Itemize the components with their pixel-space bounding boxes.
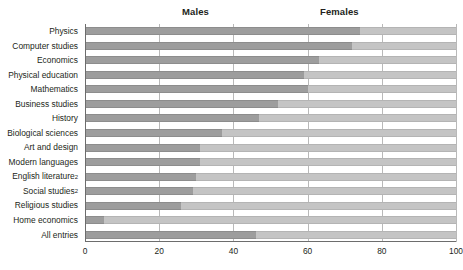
x-tick-label: 60 [303, 246, 312, 256]
category-label: Religious studies [0, 198, 82, 213]
stacked-bar [85, 202, 456, 210]
stacked-bar [85, 71, 456, 79]
category-label: Physical education [0, 68, 82, 83]
bar-segment-males [85, 129, 222, 137]
stacked-bar [85, 56, 456, 64]
category-label: Home economics [0, 213, 82, 228]
stacked-bar [85, 27, 456, 35]
bar-segment-males [85, 42, 352, 50]
category-label: Business studies [0, 97, 82, 112]
x-tick-label: 80 [377, 246, 386, 256]
stacked-bar-chart: Males Females PhysicsComputer studiesEco… [0, 0, 463, 270]
bar-segment-females [352, 42, 456, 50]
y-axis-line [85, 24, 86, 242]
category-label: Mathematics [0, 82, 82, 97]
category-label: Physics [0, 24, 82, 39]
x-tick-label: 100 [449, 246, 463, 256]
bar-segment-males [85, 158, 200, 166]
stacked-bar [85, 100, 456, 108]
bar-segment-females [200, 144, 456, 152]
category-label: History [0, 111, 82, 126]
legend-label-males: Males [182, 6, 209, 17]
bar-row [85, 126, 456, 141]
category-label: Biological sciences [0, 126, 82, 141]
stacked-bar [85, 85, 456, 93]
plot-area [85, 24, 456, 242]
bar-segment-females [193, 187, 456, 195]
stacked-bar [85, 231, 456, 239]
bar-segment-males [85, 71, 304, 79]
category-label: Social studies2 [0, 184, 82, 199]
bar-row [85, 68, 456, 83]
bar-row [85, 140, 456, 155]
bar-row [85, 227, 456, 242]
bar-segment-males [85, 202, 181, 210]
category-label: Computer studies [0, 39, 82, 54]
bar-row [85, 53, 456, 68]
bar-segment-males [85, 27, 360, 35]
stacked-bar [85, 129, 456, 137]
category-label: All entries [0, 227, 82, 242]
bar-segment-males [85, 85, 308, 93]
bar-rows [85, 24, 456, 242]
x-axis-line [85, 241, 456, 242]
category-axis-labels: PhysicsComputer studiesEconomicsPhysical… [0, 24, 82, 242]
bar-row [85, 155, 456, 170]
category-label: Economics [0, 53, 82, 68]
stacked-bar [85, 187, 456, 195]
bar-row [85, 82, 456, 97]
bar-segment-males [85, 216, 104, 224]
bar-segment-females [196, 173, 456, 181]
gridline [456, 24, 457, 242]
stacked-bar [85, 216, 456, 224]
bar-segment-males [85, 144, 200, 152]
category-label: English literature2 [0, 169, 82, 184]
bar-segment-males [85, 173, 196, 181]
bar-segment-females [319, 56, 456, 64]
stacked-bar [85, 144, 456, 152]
bar-segment-males [85, 231, 256, 239]
bar-segment-males [85, 100, 278, 108]
legend-label-females: Females [320, 6, 359, 17]
bar-segment-males [85, 187, 193, 195]
bar-row [85, 213, 456, 228]
bar-row [85, 39, 456, 54]
bar-row [85, 111, 456, 126]
bar-segment-females [259, 114, 456, 122]
bar-segment-males [85, 114, 259, 122]
x-tick-label: 0 [83, 246, 88, 256]
bar-segment-females [222, 129, 456, 137]
bar-row [85, 184, 456, 199]
stacked-bar [85, 173, 456, 181]
category-label: Modern languages [0, 155, 82, 170]
x-tick-label: 20 [155, 246, 164, 256]
bar-segment-females [360, 27, 456, 35]
bar-segment-females [278, 100, 456, 108]
chart-legend: Males Females [0, 6, 463, 20]
bar-row [85, 169, 456, 184]
stacked-bar [85, 114, 456, 122]
bar-segment-males [85, 56, 319, 64]
bar-row [85, 24, 456, 39]
bar-row [85, 198, 456, 213]
bar-segment-females [181, 202, 456, 210]
category-label: Art and design [0, 140, 82, 155]
x-axis-tick-labels: 020406080100 [85, 246, 456, 260]
bar-segment-females [304, 71, 456, 79]
bar-segment-females [256, 231, 456, 239]
stacked-bar [85, 42, 456, 50]
bar-row [85, 97, 456, 112]
stacked-bar [85, 158, 456, 166]
x-tick-label: 40 [229, 246, 238, 256]
bar-segment-females [308, 85, 456, 93]
bar-segment-females [200, 158, 456, 166]
bar-segment-females [104, 216, 456, 224]
